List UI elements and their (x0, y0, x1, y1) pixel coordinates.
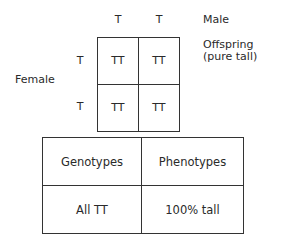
phenotypes-header: Phenotypes (142, 138, 243, 186)
female-allele-1: T (73, 55, 87, 67)
offspring-label-line2: (pure tall) (203, 51, 257, 63)
punnett-square: TT TT TT TT (97, 37, 180, 132)
punnett-cell: TT (98, 38, 139, 85)
punnett-cell: TT (139, 85, 180, 132)
phenotype-value: 100% tall (142, 186, 243, 233)
female-allele-2: T (73, 101, 87, 113)
summary-table: Genotypes Phenotypes All TT 100% tall (42, 137, 244, 234)
offspring-label: Offspring (pure tall) (203, 39, 257, 63)
male-allele-1: T (111, 14, 125, 26)
female-label: Female (15, 74, 55, 86)
genotype-value: All TT (43, 186, 142, 233)
genotypes-header: Genotypes (43, 138, 142, 186)
punnett-cell: TT (98, 85, 139, 132)
male-label: Male (203, 14, 229, 26)
punnett-cell: TT (139, 38, 180, 85)
male-allele-2: T (152, 14, 166, 26)
